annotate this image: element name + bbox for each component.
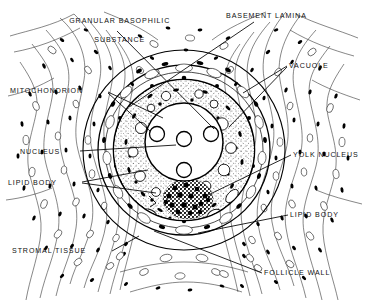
label-nucleus: NUCLEUS bbox=[20, 148, 60, 158]
yolk-nucleus-mass bbox=[163, 179, 213, 219]
label-follicle-wall: FOLLICLE WALL bbox=[264, 269, 330, 279]
label-mitochondrion: MITOCHONDRION bbox=[10, 87, 83, 97]
label-lipid-body-left: LIPID BODY bbox=[8, 179, 57, 189]
nucleolus bbox=[177, 132, 192, 147]
nucleolus bbox=[204, 127, 219, 142]
label-yolk-nucleus: YOLK NUCLEUS bbox=[293, 151, 359, 161]
oocyte-diagram: GRANULAR BASOPHILIC SUBSTANCE BASEMENT L… bbox=[0, 0, 368, 302]
label-line-1: GRANULAR BASOPHILIC bbox=[69, 17, 170, 25]
label-stromal-tissue: STROMAL TISSUE bbox=[12, 247, 86, 257]
nucleolus bbox=[150, 127, 165, 142]
label-basement-lamina: BASEMENT LAMINA bbox=[226, 12, 307, 22]
label-granular-basophilic-substance: GRANULAR BASOPHILIC SUBSTANCE bbox=[55, 7, 173, 55]
label-lipid-body-right: LIPID BODY bbox=[290, 211, 339, 221]
label-vacuole: VACUOLE bbox=[289, 62, 329, 72]
nucleolus bbox=[177, 163, 192, 178]
label-line-2: SUBSTANCE bbox=[94, 36, 145, 44]
